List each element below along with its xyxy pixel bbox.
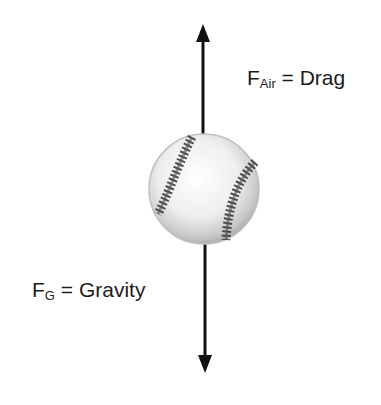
- gravity-symbol: F: [32, 278, 45, 301]
- drag-subscript: Air: [260, 76, 276, 91]
- drag-force-label: FAir = Drag: [247, 66, 345, 91]
- drag-symbol: F: [247, 66, 260, 89]
- drag-equals: =: [282, 66, 294, 89]
- force-diagram: [0, 0, 381, 405]
- gravity-force-label: FG = Gravity: [32, 278, 145, 303]
- gravity-equals: =: [61, 278, 73, 301]
- gravity-subscript: G: [45, 288, 55, 303]
- gravity-name: Gravity: [79, 278, 146, 301]
- drag-name: Drag: [300, 66, 346, 89]
- gravity-arrow-icon: [198, 244, 212, 373]
- baseball-icon: [149, 134, 259, 244]
- drag-arrow-icon: [196, 24, 210, 134]
